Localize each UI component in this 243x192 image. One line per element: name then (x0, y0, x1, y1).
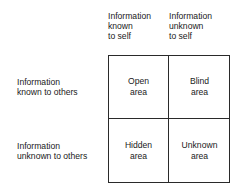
cell-blind-area: Blind area (169, 55, 230, 118)
cell-subtitle: area (130, 151, 147, 161)
cell-subtitle: area (191, 151, 208, 161)
cell-title: Blind (190, 76, 209, 86)
row-header-line: unknown to others (17, 151, 107, 161)
column-header-known-to-self: Information known to self (108, 11, 170, 42)
row-header-line: known to others (17, 87, 107, 97)
row-header-line: Information (17, 77, 107, 87)
cell-open-area: Open area (108, 55, 169, 118)
column-header-line: to self (108, 31, 170, 41)
cell-subtitle: area (191, 87, 208, 97)
column-header-line: to self (169, 31, 231, 41)
row-header-unknown-to-others: Information unknown to others (17, 141, 107, 161)
cell-subtitle: area (130, 87, 147, 97)
cell-unknown-area: Unknown area (169, 119, 230, 182)
column-header-line: Information (169, 11, 231, 21)
column-header-unknown-to-self: Information unknown to self (169, 11, 231, 42)
cell-title: Hidden (125, 140, 152, 150)
row-header-known-to-others: Information known to others (17, 77, 107, 97)
cell-title: Unknown (182, 140, 218, 150)
cell-title: Open (128, 76, 149, 86)
column-header-line: Information (108, 11, 170, 21)
cell-hidden-area: Hidden area (108, 119, 169, 182)
row-header-line: Information (17, 141, 107, 151)
column-header-line: known (108, 21, 170, 31)
column-header-line: unknown (169, 21, 231, 31)
